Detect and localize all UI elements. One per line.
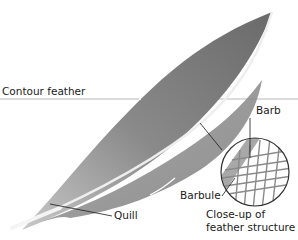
closeup-caption-line1: Close-up of [206, 208, 265, 220]
contour-feather-label: Contour feather [2, 85, 85, 97]
closeup-caption-line2: feather structure [206, 221, 295, 233]
feather-diagram [0, 0, 298, 240]
closeup-lens [218, 135, 293, 210]
vane-split [140, 79, 143, 100]
quill-label: Quill [114, 209, 138, 221]
barb-label: Barb [256, 104, 281, 116]
barbule-label: Barbule [180, 189, 221, 201]
